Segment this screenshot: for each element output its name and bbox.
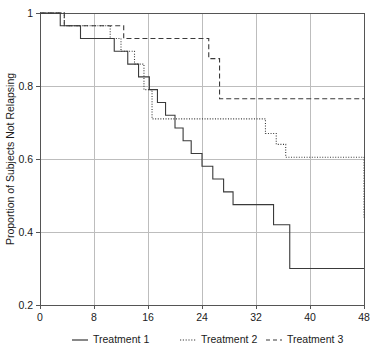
kaplan-meier-chart: 0816243240480.20.40.60.81 Proportion of …	[0, 0, 380, 352]
y-tick-label: 0.4	[18, 226, 33, 238]
x-tick-label: 32	[250, 311, 262, 323]
x-tick-label: 8	[91, 311, 97, 323]
legend-label: Treatment 1	[93, 333, 149, 345]
legend-item-1: Treatment 1	[72, 333, 149, 345]
y-axis-title: Proportion of Subjects Not Relapsing	[4, 73, 16, 245]
y-tick-label: 0.2	[18, 299, 33, 311]
y-tick-label: 0.8	[18, 80, 33, 92]
legend-item-3: Treatment 3	[266, 333, 343, 345]
y-tick-label: 0.6	[18, 153, 33, 165]
axis-ticks	[36, 14, 365, 310]
chart-canvas: 0816243240480.20.40.60.81 Proportion of …	[0, 0, 380, 352]
axis-tick-labels: 0816243240480.20.40.60.81	[18, 7, 370, 324]
x-tick-label: 0	[37, 311, 43, 323]
y-tick-label: 1	[27, 7, 33, 19]
y-axis-title-text: Proportion of Subjects Not Relapsing	[4, 73, 16, 245]
x-tick-label: 16	[142, 311, 154, 323]
legend-label: Treatment 3	[287, 333, 343, 345]
legend-item-2: Treatment 2	[180, 333, 257, 345]
x-tick-label: 48	[358, 311, 370, 323]
legend-label: Treatment 2	[201, 333, 257, 345]
x-tick-label: 40	[304, 311, 316, 323]
chart-legend: Treatment 1Treatment 2Treatment 3	[72, 333, 343, 345]
x-tick-label: 24	[196, 311, 208, 323]
